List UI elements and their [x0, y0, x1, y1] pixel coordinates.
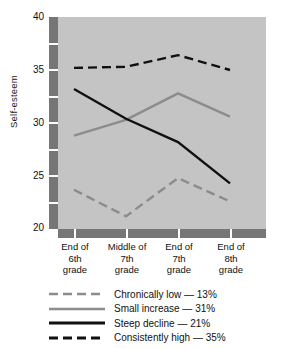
y-tick-label-25: 25 — [22, 171, 44, 181]
legend-label-consistently-high: Consistently high — 35% — [106, 332, 226, 343]
y-tick-label-40: 40 — [22, 12, 44, 22]
series-lines — [58, 17, 266, 229]
line-steep-decline — [74, 89, 230, 183]
x-tick-line: 8th — [200, 253, 262, 265]
legend-swatch-chronically-low — [48, 287, 106, 302]
legend-label-steep-decline: Steep decline — 21% — [106, 318, 210, 329]
legend-swatch-small-increase — [48, 302, 106, 317]
y-axis-tickmark — [49, 43, 58, 45]
legend-label-small-increase: Small increase — 31% — [106, 303, 215, 314]
x-tick-line: grade — [200, 264, 262, 276]
legend-label-chronically-low: Chronically low — 13% — [106, 289, 217, 300]
y-tick-label-20: 20 — [22, 223, 44, 233]
legend-item-small-increase: Small increase — 31% — [48, 302, 278, 317]
y-axis-tickmark — [49, 175, 58, 177]
x-tick-label-end-of-8th-grade: End of 8th grade — [200, 241, 262, 276]
line-consistently-high — [74, 55, 230, 70]
y-tick-label-30: 30 — [22, 118, 44, 128]
x-axis-tickmark — [74, 229, 76, 238]
legend-item-consistently-high: Consistently high — 35% — [48, 331, 278, 346]
chart-legend: Chronically low — 13% Small increase — 3… — [48, 287, 278, 345]
x-tick-line: End of — [200, 241, 262, 253]
self-esteem-trajectory-chart: Self-esteem 40 35 30 25 20 End of 6th gr… — [0, 0, 289, 349]
y-axis-tickmark — [49, 202, 58, 204]
y-axis-tick-labels: 40 35 30 25 20 — [22, 0, 44, 349]
x-axis-tickmark — [178, 229, 180, 238]
legend-swatch-consistently-high — [48, 331, 106, 346]
y-tick-label-35: 35 — [22, 65, 44, 75]
y-axis-tickmark — [49, 96, 58, 98]
x-axis-tickmark — [126, 229, 128, 238]
line-chronically-low — [74, 178, 230, 216]
plot-area — [58, 17, 266, 229]
y-axis-tickmark — [49, 69, 58, 71]
legend-item-chronically-low: Chronically low — 13% — [48, 287, 278, 302]
x-axis-bar — [58, 229, 266, 238]
legend-item-steep-decline: Steep decline — 21% — [48, 316, 278, 331]
y-axis-tickmark — [49, 122, 58, 124]
y-axis-title: Self-esteem — [8, 62, 19, 142]
y-axis-tickmark — [49, 149, 58, 151]
x-axis-tickmark — [230, 229, 232, 238]
legend-swatch-steep-decline — [48, 316, 106, 331]
